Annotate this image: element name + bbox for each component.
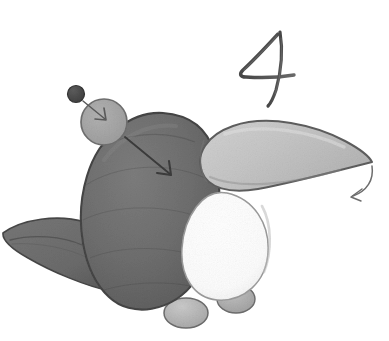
penguin-belly [182,192,270,300]
penguin-beak [200,121,372,191]
arrow-beak-tip [351,166,372,201]
callout-dot[interactable] [68,86,85,103]
sketch-canvas: 4 [0,0,389,341]
penguin-sketch-illustration [0,0,389,341]
